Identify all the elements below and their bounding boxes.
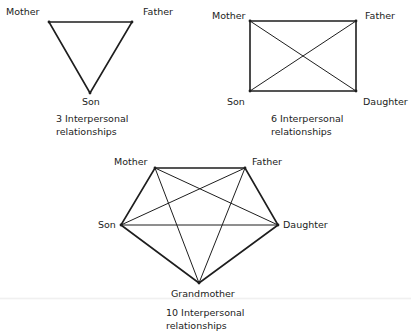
node-father xyxy=(244,167,247,170)
rectangle-caption: 6 Interpersonalrelationships xyxy=(271,112,343,138)
triangle-diagram xyxy=(48,21,134,95)
caption-line: 10 Interpersonal xyxy=(166,306,244,319)
edge-father-son xyxy=(121,168,245,225)
pentagon-caption: 10 Interpersonalrelationships xyxy=(166,306,244,332)
node-father xyxy=(131,21,134,24)
label-grandmother: Grandmother xyxy=(171,288,235,299)
node-son xyxy=(249,90,252,93)
edge-father-daughter xyxy=(245,168,278,225)
label-father: Father xyxy=(143,6,173,17)
node-mother xyxy=(48,21,51,24)
label-mother: Mother xyxy=(212,10,246,21)
label-son: Son xyxy=(98,219,116,230)
label-daughter: Daughter xyxy=(363,96,408,107)
label-mother: Mother xyxy=(114,156,148,167)
caption-line: 6 Interpersonal xyxy=(271,112,343,125)
caption-line: 3 Interpersonal xyxy=(56,112,128,125)
node-father xyxy=(355,20,358,23)
node-mother xyxy=(154,167,157,170)
edge-son-mother xyxy=(121,168,155,225)
node-grandmother xyxy=(198,282,201,285)
pentagon-diagram xyxy=(120,167,280,285)
label-daughter: Daughter xyxy=(283,219,328,230)
node-daughter xyxy=(355,90,358,93)
edge-grandmother-son xyxy=(121,225,199,283)
label-mother: Mother xyxy=(6,6,40,17)
label-son: Son xyxy=(82,96,100,107)
label-son: Son xyxy=(227,96,245,107)
caption-line: relationships xyxy=(166,319,244,332)
triangle-caption: 3 Interpersonalrelationships xyxy=(56,112,128,138)
rectangle-diagram xyxy=(249,20,358,93)
node-son xyxy=(120,224,123,227)
edge-father-son xyxy=(90,22,132,93)
edge-son-mother xyxy=(49,22,90,93)
caption-line: relationships xyxy=(271,125,343,138)
node-daughter xyxy=(277,224,280,227)
node-son xyxy=(89,92,92,95)
label-father: Father xyxy=(252,156,282,167)
node-mother xyxy=(249,20,252,23)
relationship-diagrams xyxy=(0,0,411,336)
label-father: Father xyxy=(365,10,395,21)
caption-line: relationships xyxy=(56,125,128,138)
